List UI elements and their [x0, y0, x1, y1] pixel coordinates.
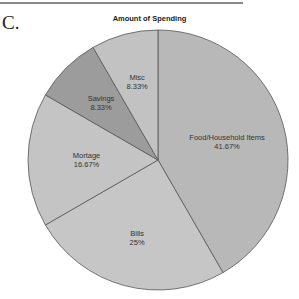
slice-label: Savings — [88, 94, 115, 103]
slice-value-label: 8.33% — [90, 103, 112, 112]
slice-value-label: 16.67% — [74, 160, 100, 169]
slice-label: Food/Household Items — [189, 133, 265, 142]
slice-label: Bills — [130, 229, 144, 238]
pie-chart: Food/Household Items41.67%Bills25%Mortag… — [0, 0, 299, 299]
slice-value-label: 8.33% — [127, 82, 149, 91]
slice-label: Misc — [129, 73, 145, 82]
slice-value-label: 41.67% — [214, 142, 240, 151]
slice-value-label: 25% — [130, 238, 145, 247]
slice-label: Mortage — [73, 151, 101, 160]
